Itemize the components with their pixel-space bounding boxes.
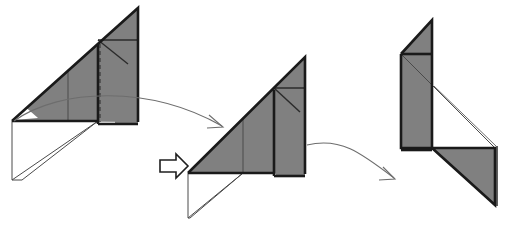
fold-diagram-canvas: Paper folding sequence Large right trian… bbox=[0, 0, 506, 233]
arrow-block-1-shape bbox=[160, 154, 188, 178]
arrow-curve-2-path bbox=[307, 143, 394, 178]
arrow-curve-1-head bbox=[207, 115, 223, 128]
step-3-body-panel bbox=[401, 54, 432, 148]
arrow-curve-2 bbox=[307, 143, 395, 180]
step-2-figure bbox=[188, 57, 305, 218]
step-3-body-diagonal-lower bbox=[432, 85, 495, 148]
step-2-right-panel bbox=[276, 88, 305, 176]
step-1-figure bbox=[12, 8, 138, 180]
step-1-right-panel bbox=[115, 40, 138, 124]
arrow-block-1 bbox=[160, 154, 188, 178]
step-3-figure bbox=[401, 20, 497, 206]
fold-diagram-svg bbox=[0, 0, 506, 233]
step-3-flap-hinge-hairline bbox=[434, 86, 497, 147]
